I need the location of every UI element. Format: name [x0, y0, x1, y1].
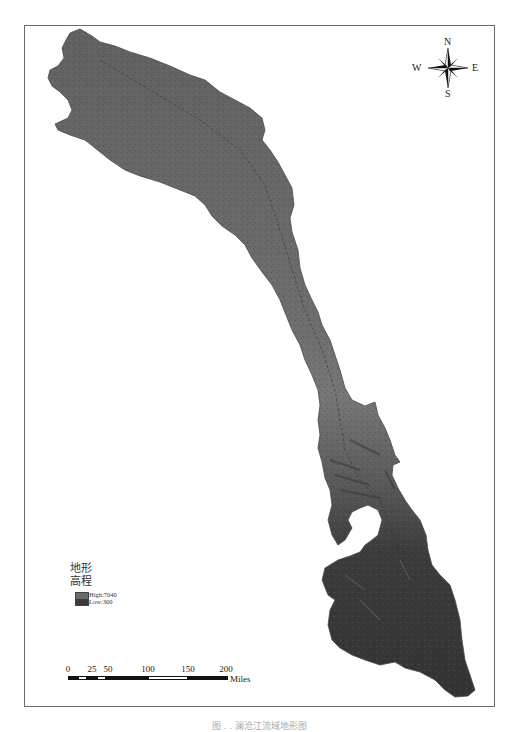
compass-n-label: N: [444, 36, 451, 47]
scale-tick-50: 50: [104, 664, 113, 674]
scale-bar: 0 25 50 100 150 200 Miles: [66, 664, 266, 694]
legend-elevation-swatch: [75, 592, 89, 606]
figure-caption: 图 . . 澜沧江流域地形图: [0, 719, 519, 732]
compass-e-label: E: [472, 62, 478, 73]
scale-tick-0: 0: [66, 664, 71, 674]
legend-title-line2: 高程: [70, 575, 92, 588]
legend-title-line1: 地形: [70, 562, 92, 575]
scale-units: Miles: [230, 674, 251, 684]
compass-s-label: S: [445, 88, 451, 99]
legend-high-label: High:7040: [89, 591, 117, 598]
legend: 地形 高程 High:7040 Low:300: [70, 562, 92, 588]
scale-tick-150: 150: [181, 664, 195, 674]
north-arrow: N S E W: [418, 38, 484, 100]
compass-w-label: W: [412, 62, 421, 73]
scale-tick-200: 200: [219, 664, 233, 674]
scale-tick-100: 100: [141, 664, 155, 674]
scale-tick-25: 25: [88, 664, 97, 674]
legend-low-label: Low:300: [89, 598, 112, 605]
